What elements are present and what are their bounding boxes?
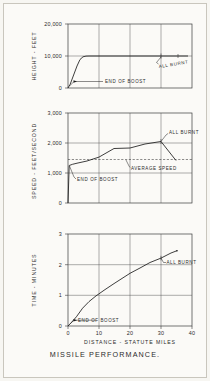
annotation-all-burnt-time: ALL BURNT (167, 260, 197, 265)
annotation-all-burnt-speed: ALL BURNT (169, 130, 199, 135)
end-of-boost-leader-speed (70, 166, 77, 179)
axis-title-height: HEIGHT - FEET (31, 31, 37, 80)
ytick-label-2-time: 2 (59, 262, 62, 268)
ytick-label-10000: 10,000 (44, 53, 62, 59)
end-of-boost-arrow-height (74, 80, 78, 82)
axis-title-time: TIME - MINUTES (31, 254, 37, 307)
axis-title-speed: SPEED - FEET/SECOND (31, 123, 37, 199)
endpoint-marker-time (176, 250, 178, 252)
annotation-all-burnt-height: ALL BURNT (158, 59, 188, 69)
average-speed-leader (126, 160, 130, 168)
annotation-average-speed: AVERAGE SPEED (131, 166, 177, 171)
ytick-label-0-time: 0 (59, 323, 62, 329)
figure-title: MISSILE PERFORMANCE. (0, 350, 210, 359)
ytick-label-1000: 1,000 (48, 170, 63, 176)
chart-speed-feet-per-second: 3,000 2,000 1,000 0 SPEED - FEET/SECOND … (0, 105, 210, 215)
ytick-label-2000: 2,000 (48, 140, 63, 146)
annotation-end-of-boost-speed: END OF BOOST (77, 177, 118, 182)
chart-height-feet: 20,000 10,000 0 HEIGHT - FEET END OF BOO… (0, 0, 210, 100)
annotation-end-of-boost-time: END OF BOOST (78, 318, 119, 323)
figure-page: 20,000 10,000 0 HEIGHT - FEET END OF BOO… (0, 0, 210, 381)
all-burnt-leader-speed (161, 134, 168, 142)
chart-time-minutes: 3 2 1 0 0 10 20 30 40 TIME - MINUTES ALL… (0, 222, 210, 342)
ytick-label-0-speed: 0 (59, 200, 62, 206)
end-of-boost-arrow-time (74, 319, 78, 321)
all-burnt-leader-time (161, 258, 166, 262)
ytick-label-0: 0 (59, 85, 62, 91)
ytick-label-3-time: 3 (59, 231, 62, 237)
speed-curve (68, 142, 176, 204)
axis-title-distance: DISTANCE - STATUTE MILES (84, 339, 176, 345)
annotation-end-of-boost-height: END OF BOOST (105, 79, 146, 84)
ytick-label-3000: 3,000 (48, 110, 63, 116)
ytick-label-1-time: 1 (59, 292, 62, 298)
time-curve (68, 251, 177, 326)
ytick-label-20000: 20,000 (44, 21, 62, 27)
